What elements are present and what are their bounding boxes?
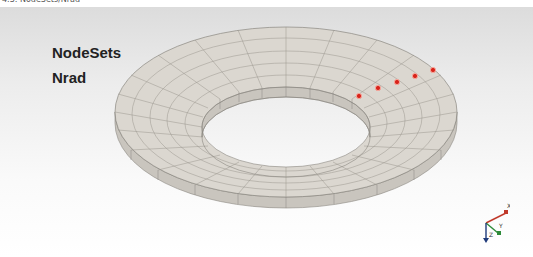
- window-title: 4.3: NodeSets/Nrad: [2, 0, 80, 4]
- title-bar: 4.3: NodeSets/Nrad: [0, 0, 533, 6]
- axis-x-label: X: [507, 202, 510, 209]
- axis-y-label: Y: [498, 222, 503, 229]
- application-window: 4.3: NodeSets/Nrad: [0, 0, 533, 257]
- nodesets-label: NodeSets: [52, 44, 121, 61]
- axis-z-label: Z: [489, 231, 493, 238]
- nrad-label: Nrad: [52, 69, 86, 86]
- ring-top-surface: [115, 27, 457, 197]
- axis-triad-icon: X Y Z: [470, 195, 510, 245]
- 3d-viewport[interactable]: NodeSets Nrad: [0, 7, 533, 257]
